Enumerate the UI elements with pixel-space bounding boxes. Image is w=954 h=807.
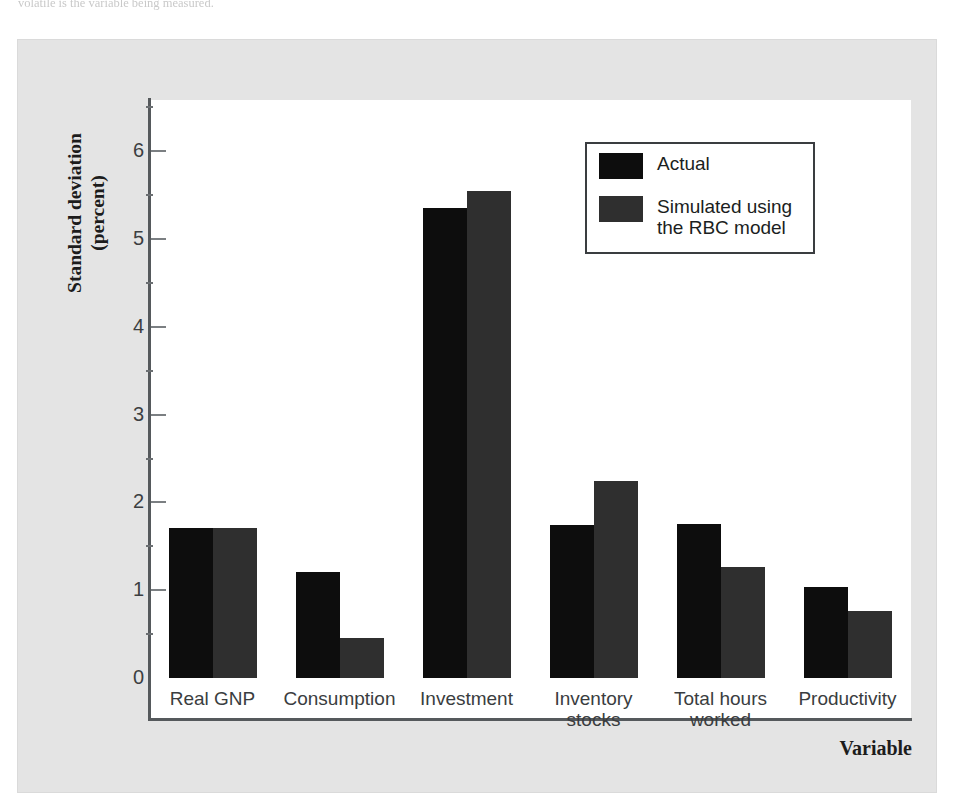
bar-simulated-4 [721, 567, 765, 678]
page-caption-fragment: volatile is the variable being measured. [18, 0, 438, 12]
x-category-label-4: Total hours worked [657, 688, 784, 731]
bar-simulated-1 [340, 638, 384, 678]
bar-actual-2 [423, 208, 467, 678]
legend-label-simulated: Simulated using the RBC model [657, 196, 792, 239]
y-tick-label-6: 6 [104, 140, 144, 160]
x-category-label-5: Productivity [784, 688, 911, 709]
y-minor-tick-4.5 [146, 282, 153, 284]
bar-actual-3 [550, 525, 594, 678]
y-tick-label-4: 4 [104, 316, 144, 336]
y-minor-tick-2.5 [146, 458, 153, 460]
bar-simulated-5 [848, 611, 892, 678]
bar-actual-5 [804, 587, 848, 678]
bar-actual-1 [296, 572, 340, 678]
y-tick-label-5: 5 [104, 228, 144, 248]
y-tick-mark-5 [151, 238, 166, 240]
y-minor-tick-1.5 [146, 545, 153, 547]
bar-simulated-2 [467, 191, 511, 678]
y-minor-tick-6.5 [146, 106, 153, 108]
y-minor-tick-0.5 [146, 633, 153, 635]
y-tick-label-0: 0 [104, 667, 144, 687]
y-axis-line [148, 98, 151, 720]
legend-swatch-actual [599, 153, 643, 179]
y-tick-mark-6 [151, 150, 166, 152]
x-category-label-0: Real GNP [149, 688, 276, 709]
bar-actual-0 [169, 528, 213, 678]
bar-simulated-0 [213, 528, 257, 678]
y-minor-tick-3.5 [146, 370, 153, 372]
y-tick-mark-3 [151, 414, 166, 416]
y-tick-mark-1 [151, 589, 166, 591]
y-tick-label-3: 3 [104, 404, 144, 424]
bar-simulated-3 [594, 481, 638, 678]
y-minor-tick-5.5 [146, 194, 153, 196]
y-tick-mark-2 [151, 501, 166, 503]
y-axis-title: Standard deviation (percent) [63, 83, 109, 343]
figure-panel: Standard deviation (percent) 0123456 Rea… [18, 40, 936, 792]
x-category-label-3: Inventory stocks [530, 688, 657, 731]
legend-label-actual: Actual [657, 153, 710, 174]
x-category-label-1: Consumption [276, 688, 403, 709]
legend-swatch-simulated [599, 196, 643, 222]
y-tick-label-1: 1 [104, 579, 144, 599]
bar-actual-4 [677, 524, 721, 678]
chart-legend: Actual Simulated using the RBC model [585, 142, 815, 254]
x-category-label-2: Investment [403, 688, 530, 709]
y-tick-label-2: 2 [104, 491, 144, 511]
x-axis-title: Variable [839, 737, 912, 760]
legend-entry-simulated: Simulated using the RBC model [599, 196, 792, 239]
y-tick-mark-4 [151, 326, 166, 328]
legend-entry-actual: Actual [599, 153, 710, 179]
